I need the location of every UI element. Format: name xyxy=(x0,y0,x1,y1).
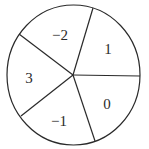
section-label: −2 xyxy=(52,27,68,43)
spinner-diagram: −2 1 0 −1 3 xyxy=(0,0,149,149)
section-label: 3 xyxy=(25,70,33,86)
section-label: 1 xyxy=(104,41,112,57)
section-label: −1 xyxy=(51,113,67,129)
section-label: 0 xyxy=(103,96,111,112)
